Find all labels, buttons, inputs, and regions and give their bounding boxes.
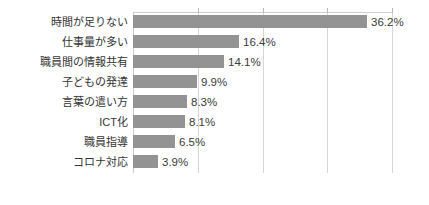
- bar-fill: [133, 15, 367, 28]
- axis-tick-40: [392, 8, 393, 13]
- bar-fill: [133, 155, 158, 168]
- value-label: 16.4%: [243, 32, 276, 52]
- value-label: 6.5%: [179, 132, 205, 152]
- category-label: 時間が足りない: [0, 12, 128, 32]
- value-label: 14.1%: [228, 52, 261, 72]
- bar: [133, 135, 175, 148]
- value-label: 8.3%: [191, 92, 217, 112]
- bar-fill: [133, 135, 175, 148]
- bar-fill: [133, 35, 239, 48]
- bar-chart: 時間が足りない36.2%仕事量が多い16.4%職員間の情報共有14.1%子どもの…: [0, 0, 429, 205]
- value-label: 36.2%: [371, 12, 404, 32]
- bar: [133, 15, 367, 28]
- category-label: 仕事量が多い: [0, 32, 128, 52]
- bar-fill: [133, 55, 224, 68]
- bar-rows: 時間が足りない36.2%仕事量が多い16.4%職員間の情報共有14.1%子どもの…: [0, 0, 429, 205]
- bar-row: 職員指導6.5%: [0, 132, 429, 152]
- category-label: 子どもの発達: [0, 72, 128, 92]
- axis-tick-10: [198, 8, 199, 13]
- bar: [133, 35, 239, 48]
- bar: [133, 155, 158, 168]
- category-label: コロナ対応: [0, 152, 128, 172]
- value-label: 9.9%: [201, 72, 227, 92]
- value-label: 8.1%: [189, 112, 215, 132]
- axis-tick-20: [263, 8, 264, 13]
- bar-row: ICT化8.1%: [0, 112, 429, 132]
- bar-row: 子どもの発達9.9%: [0, 72, 429, 92]
- bar: [133, 55, 224, 68]
- bar-row: 仕事量が多い16.4%: [0, 32, 429, 52]
- value-label: 3.9%: [162, 152, 188, 172]
- bar: [133, 95, 187, 108]
- bar-fill: [133, 115, 185, 128]
- axis-tick-30: [327, 8, 328, 13]
- bar-row: コロナ対応3.9%: [0, 152, 429, 172]
- category-label: 言葉の遣い方: [0, 92, 128, 112]
- bar-row: 言葉の遣い方8.3%: [0, 92, 429, 112]
- bar-row: 時間が足りない36.2%: [0, 12, 429, 32]
- bar: [133, 115, 185, 128]
- bar-fill: [133, 95, 187, 108]
- category-label: 職員間の情報共有: [0, 52, 128, 72]
- bar-row: 職員間の情報共有14.1%: [0, 52, 429, 72]
- category-label: ICT化: [0, 112, 128, 132]
- category-label: 職員指導: [0, 132, 128, 152]
- bar: [133, 75, 197, 88]
- bar-fill: [133, 75, 197, 88]
